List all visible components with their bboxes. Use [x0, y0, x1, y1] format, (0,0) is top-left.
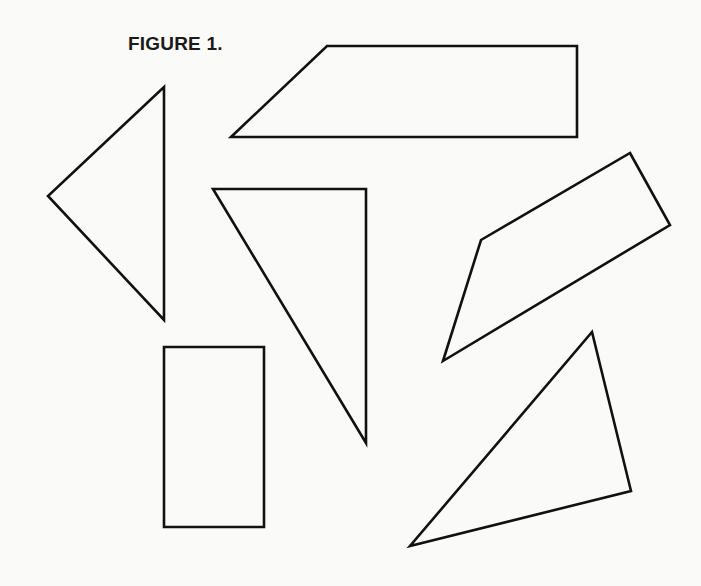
trapezoid-top	[231, 46, 577, 137]
quadrilateral-right	[443, 153, 670, 361]
rectangle-bottom-left	[164, 347, 264, 527]
triangle-bottom-right	[410, 332, 631, 546]
triangle-left	[48, 87, 164, 320]
triangle-center	[213, 189, 366, 443]
figure-canvas	[0, 0, 701, 586]
